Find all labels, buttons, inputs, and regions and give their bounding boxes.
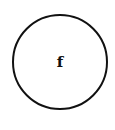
diagram-canvas: f <box>0 0 115 130</box>
node-label-f: f <box>50 52 70 72</box>
